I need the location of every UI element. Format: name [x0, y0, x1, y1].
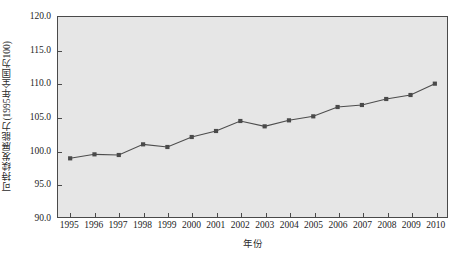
data-point-marker [68, 156, 72, 160]
x-axis-tick-mark [315, 213, 316, 217]
y-axis-tick-mark [58, 185, 62, 186]
x-axis-tick-mark [290, 213, 291, 217]
y-axis-tick-label: 115.0 [30, 45, 51, 55]
y-axis-tick-label: 105.0 [30, 112, 51, 122]
y-axis-tick-label: 100.0 [30, 146, 51, 156]
x-axis-tick-mark [437, 213, 438, 217]
y-axis-tick-label: 120.0 [30, 11, 51, 21]
y-axis-tick-mark [58, 118, 62, 119]
y-axis-tick-label: 110.0 [30, 78, 51, 88]
series-line-chart [58, 17, 447, 217]
x-axis-tick-label: 2009 [402, 220, 421, 230]
x-axis-tick-mark [95, 213, 96, 217]
x-axis-tick-label: 2003 [255, 220, 274, 230]
x-axis-tick-labels: 1995199619971998199920002001200220032004… [57, 220, 448, 236]
x-axis-tick-label: 2004 [280, 220, 299, 230]
x-axis-tick-mark [266, 213, 267, 217]
y-axis-tick-mark [58, 51, 62, 52]
x-axis-tick-mark [241, 213, 242, 217]
x-axis-tick-mark [412, 213, 413, 217]
data-point-marker [408, 93, 412, 97]
y-axis-tick-mark [58, 152, 62, 153]
y-axis-tick-labels: 90.095.0100.0105.0110.0115.0120.0 [14, 0, 54, 240]
x-axis-tick-label: 1995 [60, 220, 79, 230]
plot-area [57, 16, 448, 218]
chart-figure: 可持续发展能力(1995年全国为100) 90.095.0100.0105.01… [0, 0, 472, 278]
x-axis-tick-mark [168, 213, 169, 217]
x-axis-tick-mark [217, 213, 218, 217]
data-point-marker [141, 142, 145, 146]
data-point-marker [433, 82, 437, 86]
x-axis-tick-label: 2006 [329, 220, 348, 230]
x-axis-tick-label: 1996 [84, 220, 103, 230]
x-axis-tick-label: 2007 [353, 220, 372, 230]
x-axis-tick-mark [70, 213, 71, 217]
x-axis-tick-label: 1998 [133, 220, 152, 230]
x-axis-tick-mark [119, 213, 120, 217]
x-axis-tick-label: 2008 [377, 220, 396, 230]
data-point-marker [336, 105, 340, 109]
data-point-marker [190, 135, 194, 139]
data-point-marker [165, 145, 169, 149]
x-axis-tick-mark [192, 213, 193, 217]
x-axis-tick-mark [339, 213, 340, 217]
data-point-marker [311, 114, 315, 118]
x-axis-title: 年份 [57, 236, 448, 250]
x-axis-tick-label: 2000 [182, 220, 201, 230]
x-axis-tick-label: 2001 [206, 220, 225, 230]
x-axis-tick-label: 2010 [426, 220, 445, 230]
x-axis-tick-label: 2002 [231, 220, 250, 230]
y-axis-tick-label: 95.0 [34, 179, 51, 189]
y-axis-tick-mark [58, 84, 62, 85]
x-axis-tick-mark [363, 213, 364, 217]
data-point-marker [384, 97, 388, 101]
y-axis-tick-label: 90.0 [34, 213, 51, 223]
y-axis-title-text: 可持续发展能力(1995年全国为100) [3, 41, 13, 191]
data-point-marker [214, 129, 218, 133]
data-point-marker [238, 119, 242, 123]
data-point-marker [360, 103, 364, 107]
x-axis-tick-label: 1999 [157, 220, 176, 230]
data-point-marker [92, 152, 96, 156]
x-axis-tick-mark [144, 213, 145, 217]
data-point-marker [287, 118, 291, 122]
data-point-marker [263, 124, 267, 128]
data-point-marker [117, 153, 121, 157]
x-axis-tick-label: 1997 [109, 220, 128, 230]
x-axis-tick-mark [388, 213, 389, 217]
series-line [70, 84, 435, 159]
x-axis-tick-label: 2005 [304, 220, 323, 230]
